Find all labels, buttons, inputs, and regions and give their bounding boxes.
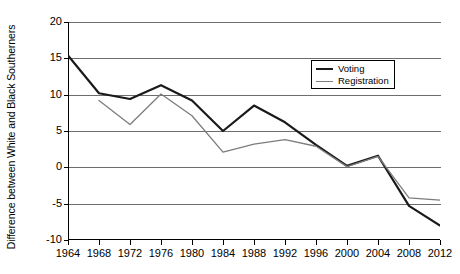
x-axis-tick-mark bbox=[99, 240, 100, 245]
line-chart: Difference between White and Black South… bbox=[0, 0, 460, 274]
x-axis-tick-mark bbox=[440, 240, 441, 245]
y-axis-tick-label: -5 bbox=[36, 198, 62, 209]
y-axis-tick-label: -10 bbox=[36, 234, 62, 245]
x-axis-tick-mark bbox=[347, 240, 348, 245]
x-axis-tick-mark bbox=[285, 240, 286, 245]
y-axis-tick-label: 5 bbox=[36, 125, 62, 136]
x-axis-tick-label: 2012 bbox=[420, 247, 460, 259]
y-axis-tick-label: 0 bbox=[36, 161, 62, 172]
y-axis-tick-label: 15 bbox=[36, 52, 62, 63]
legend-entry-voting: Voting bbox=[312, 63, 394, 75]
y-axis-title: Difference between White and Black South… bbox=[0, 0, 22, 274]
x-axis-tick-mark bbox=[192, 240, 193, 245]
legend-swatch-voting-icon bbox=[316, 68, 333, 70]
legend-swatch-registration-icon bbox=[316, 81, 333, 82]
x-axis-tick-marks bbox=[68, 240, 440, 246]
x-axis-tick-mark bbox=[316, 240, 317, 245]
x-axis-tick-mark bbox=[409, 240, 410, 245]
x-axis-tick-mark bbox=[378, 240, 379, 245]
x-axis-tick-mark bbox=[254, 240, 255, 245]
x-axis-tick-mark bbox=[161, 240, 162, 245]
y-axis-tick-label: 10 bbox=[36, 89, 62, 100]
legend-entry-registration: Registration bbox=[312, 75, 394, 87]
legend-label-voting: Voting bbox=[338, 64, 364, 74]
series-line-registration bbox=[99, 94, 440, 200]
x-axis-tick-mark bbox=[68, 240, 69, 245]
y-axis-tick-labels: 20151050-5-10 bbox=[36, 22, 62, 240]
series-lines bbox=[68, 22, 440, 240]
chart-legend: Voting Registration bbox=[311, 60, 395, 89]
x-axis-tick-mark bbox=[223, 240, 224, 245]
legend-label-registration: Registration bbox=[338, 76, 389, 86]
x-axis-tick-labels: 1964196819721976198019841988199219962000… bbox=[68, 247, 440, 261]
y-axis-tick-label: 20 bbox=[36, 16, 62, 27]
x-axis-tick-mark bbox=[130, 240, 131, 245]
